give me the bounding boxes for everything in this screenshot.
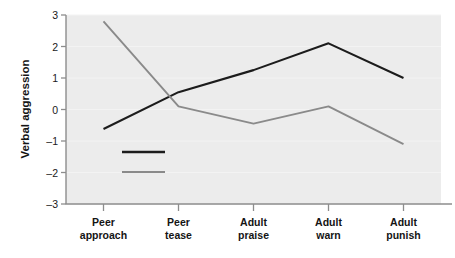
plot-area xyxy=(0,0,455,258)
line-chart: Verbal aggression 3210–1–2–3 Peerapproac… xyxy=(0,0,455,258)
